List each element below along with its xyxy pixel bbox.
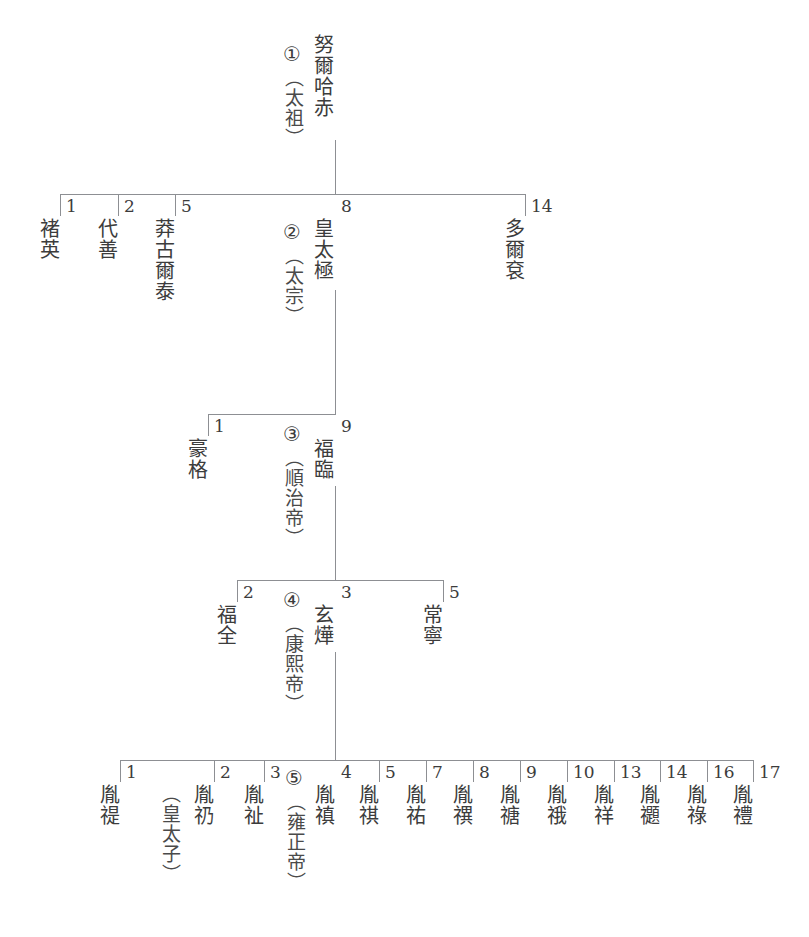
name-xuanye: 玄燁: [312, 604, 332, 646]
tick-yinlu: [707, 760, 708, 782]
tick-manggultai: [175, 194, 176, 216]
name-yinli: 胤禮: [731, 784, 751, 826]
note-hongtaiji: （太宗）: [283, 246, 302, 326]
name-yinreng: 胤礽: [192, 784, 212, 826]
rank-dorgon: 14: [531, 198, 553, 215]
trunk-line-gen2-gen3: [335, 290, 336, 414]
tick-yinli: [753, 760, 754, 782]
tick-hooge: [208, 414, 209, 436]
name-dorgon: 多爾袞: [503, 218, 523, 281]
ordinal-yinzhen: ⑤: [285, 768, 303, 788]
rank-hooge: 1: [214, 418, 225, 435]
name-nurhaci: 努爾哈赤: [312, 34, 332, 118]
name-hooge: 豪格: [186, 438, 206, 480]
tick-chuying: [60, 194, 61, 216]
rank-yinxiang: 13: [620, 764, 642, 781]
rank-changning: 5: [449, 584, 460, 601]
trunk-line-gen1-gen2: [335, 140, 336, 194]
name-yinxiang: 胤祥: [592, 784, 612, 826]
name-yintang: 胤禟: [498, 784, 518, 826]
rank-yinzhen: 4: [341, 764, 352, 781]
note-xuanye: （康熙帝）: [283, 614, 302, 714]
rank-yinqi: 5: [385, 764, 396, 781]
tick-daishan: [118, 194, 119, 216]
rank-yinti1: 1: [126, 764, 137, 781]
rank-fuquan: 2: [243, 584, 254, 601]
name-yinzhen: 胤禛: [313, 784, 333, 826]
name-yinlu: 胤祿: [685, 784, 705, 826]
tick-yinsi: [473, 760, 474, 782]
name-hongtaiji: 皇太極: [312, 218, 332, 281]
tick-yine: [567, 760, 568, 782]
rank-fulin: 9: [341, 418, 352, 435]
tick-yinti14: [660, 760, 661, 782]
name-yinqi: 胤祺: [357, 784, 377, 826]
rank-yinlu: 16: [713, 764, 735, 781]
ordinal-nurhaci: ①: [283, 44, 301, 64]
tick-yinti1: [120, 760, 121, 782]
name-fuquan: 福全: [215, 604, 235, 646]
rank-manggultai: 5: [181, 198, 192, 215]
rank-yinreng: 2: [220, 764, 231, 781]
tick-dorgon: [525, 194, 526, 216]
sibling-bar-gen2: [60, 194, 526, 195]
name-yine: 胤䄉: [545, 784, 565, 826]
name-yinzhi: 胤祉: [242, 784, 262, 826]
rank-yinzhi: 3: [270, 764, 281, 781]
note-fulin: （順治帝）: [283, 448, 302, 548]
name-fulin: 福臨: [312, 438, 332, 480]
name-yinsi: 胤禩: [451, 784, 471, 826]
rank-yinti14: 14: [666, 764, 688, 781]
tick-yinreng: [214, 760, 215, 782]
note-yinreng: （皇太子）: [160, 784, 179, 884]
tick-fuquan: [237, 580, 238, 602]
rank-xuanye: 3: [341, 584, 352, 601]
rank-yinyou: 7: [432, 764, 443, 781]
ordinal-hongtaiji: ②: [283, 222, 301, 242]
rank-hongtaiji: 8: [341, 198, 352, 215]
note-yinzhen: （雍正帝）: [285, 792, 304, 892]
ordinal-fulin: ③: [283, 424, 301, 444]
sibling-bar-gen4: [237, 580, 443, 581]
name-chuying: 褚英: [38, 218, 58, 260]
note-nurhaci: （太祖）: [283, 68, 302, 148]
rank-yine: 10: [573, 764, 595, 781]
tick-yinyou: [426, 760, 427, 782]
sibling-bar-gen3: [208, 414, 336, 415]
genealogy-chart: ① （太祖） 努爾哈赤 1 褚英 2 代善 5 莽古爾泰 8 ② （太宗） 皇太…: [0, 0, 809, 937]
name-daishan: 代善: [96, 218, 116, 260]
trunk-line-gen3-gen4: [335, 486, 336, 580]
ordinal-xuanye: ④: [283, 590, 301, 610]
rank-yintang: 9: [526, 764, 537, 781]
rank-yinli: 17: [759, 764, 781, 781]
tick-changning: [443, 580, 444, 602]
name-changning: 常寧: [421, 604, 441, 646]
tick-yintang: [520, 760, 521, 782]
rank-chuying: 1: [66, 198, 77, 215]
tick-yinqi: [379, 760, 380, 782]
rank-yinsi: 8: [479, 764, 490, 781]
trunk-line-gen4-gen5: [335, 652, 336, 760]
tick-yinzhi: [264, 760, 265, 782]
name-yinti1: 胤禔: [98, 784, 118, 826]
name-yinti14: 胤禵: [638, 784, 658, 826]
name-manggultai: 莽古爾泰: [153, 218, 173, 302]
tick-yinxiang: [614, 760, 615, 782]
name-yinyou: 胤祐: [404, 784, 424, 826]
rank-daishan: 2: [124, 198, 135, 215]
